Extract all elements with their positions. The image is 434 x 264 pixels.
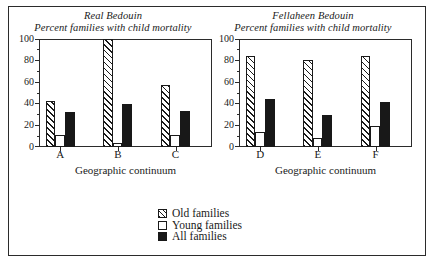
y-tick-label: 40	[24, 98, 34, 108]
y-tick-label: 60	[224, 77, 234, 87]
bar-group: D	[239, 39, 297, 147]
plot-wrapper-left: 020406080100 ABC Geographic continuum	[14, 39, 212, 157]
y-tick-mark-minor	[237, 93, 240, 94]
x-tick-label: D	[256, 149, 264, 160]
y-tick-label: 60	[24, 77, 34, 87]
y-tick-label: 80	[224, 55, 234, 65]
legend-item-old-families: Old families	[158, 208, 288, 220]
panel-title-line2: Percent families with child mortality	[214, 22, 412, 34]
y-tick-mark	[235, 125, 239, 126]
bar-young-families	[255, 132, 265, 146]
y-tick-label: 40	[224, 98, 234, 108]
bar-young-families	[170, 135, 180, 147]
bar-group: F	[354, 39, 412, 147]
y-tick-mark	[235, 82, 239, 83]
bar-young-families	[313, 138, 323, 147]
panel-title-line2: Percent families with child mortality	[14, 22, 212, 34]
y-tick-mark	[235, 39, 239, 40]
x-axis-title-right: Geographic continuum	[239, 165, 412, 176]
y-axis-labels-left: 020406080100	[14, 39, 37, 147]
swatch-young-families-icon	[158, 221, 167, 230]
y-tick-mark	[35, 103, 39, 104]
legend-label-old-families: Old families	[172, 208, 229, 220]
swatch-old-families-icon	[158, 209, 167, 218]
y-tick-mark-minor	[237, 114, 240, 115]
chart-panel-fellaheen-bedouin: Fellaheen Bedouin Percent families with …	[214, 10, 412, 200]
bar-all-families	[180, 111, 190, 147]
bar-young-families	[55, 135, 65, 147]
bar-old-families	[361, 56, 371, 147]
x-tick-label: C	[172, 149, 179, 160]
y-tick-mark	[235, 103, 239, 104]
y-axis-labels-right: 020406080100	[214, 39, 237, 147]
bar-group: A	[39, 39, 97, 147]
y-tick-mark	[35, 125, 39, 126]
bar-old-families	[46, 101, 56, 146]
y-tick-label: 20	[224, 120, 234, 130]
x-tick-label: E	[314, 149, 321, 160]
chart-panel-real-bedouin: Real Bedouin Percent families with child…	[14, 10, 212, 200]
plot-axes-right: DEF	[239, 39, 412, 147]
bar-group: B	[97, 39, 155, 147]
y-tick-mark-minor	[37, 136, 40, 137]
y-tick-label: 80	[24, 55, 34, 65]
bars-layer-left: ABC	[39, 39, 212, 147]
y-tick-label: 100	[19, 34, 34, 44]
panel-title-real-bedouin: Real Bedouin Percent families with child…	[14, 10, 212, 34]
bar-young-families	[113, 143, 123, 146]
bar-all-families	[380, 102, 390, 146]
y-tick-mark-minor	[37, 114, 40, 115]
bars-layer-right: DEF	[239, 39, 412, 147]
y-tick-mark-minor	[237, 136, 240, 137]
y-tick-mark	[35, 39, 39, 40]
y-tick-mark-minor	[37, 71, 40, 72]
y-tick-label: 0	[229, 142, 234, 152]
legend-item-all-families: All families	[158, 231, 288, 243]
plot-axes-left: ABC	[39, 39, 212, 147]
bar-all-families	[122, 104, 132, 146]
panel-title-line1: Real Bedouin	[14, 10, 212, 22]
bar-old-families	[303, 60, 313, 146]
x-tick-label: F	[372, 149, 378, 160]
bar-group: E	[297, 39, 355, 147]
y-tick-label: 100	[219, 34, 234, 44]
bar-old-families	[246, 56, 256, 147]
bar-all-families	[265, 99, 275, 147]
x-tick-label: A	[56, 149, 64, 160]
bar-group: C	[154, 39, 212, 147]
bar-all-families	[322, 115, 332, 146]
bar-old-families	[161, 85, 171, 147]
y-tick-mark-minor	[37, 49, 40, 50]
y-tick-mark	[235, 60, 239, 61]
plot-wrapper-right: 020406080100 DEF Geographic continuum	[214, 39, 412, 157]
swatch-all-families-icon	[158, 232, 167, 241]
bar-all-families	[65, 112, 75, 147]
bar-old-families	[103, 39, 113, 147]
bar-young-families	[370, 126, 380, 147]
y-tick-label: 0	[29, 142, 34, 152]
y-tick-mark-minor	[237, 71, 240, 72]
panel-title-line1: Fellaheen Bedouin	[214, 10, 412, 22]
figure-root: Real Bedouin Percent families with child…	[0, 0, 434, 264]
y-tick-mark	[35, 82, 39, 83]
y-tick-mark-minor	[237, 49, 240, 50]
panel-title-fellaheen-bedouin: Fellaheen Bedouin Percent families with …	[214, 10, 412, 34]
x-tick-label: B	[114, 149, 121, 160]
legend-label-all-families: All families	[172, 231, 227, 243]
x-axis-title-left: Geographic continuum	[39, 165, 212, 176]
y-tick-mark-minor	[37, 93, 40, 94]
y-tick-label: 20	[24, 120, 34, 130]
chart-legend: Old families Young families All families	[158, 208, 288, 243]
y-tick-mark	[35, 60, 39, 61]
